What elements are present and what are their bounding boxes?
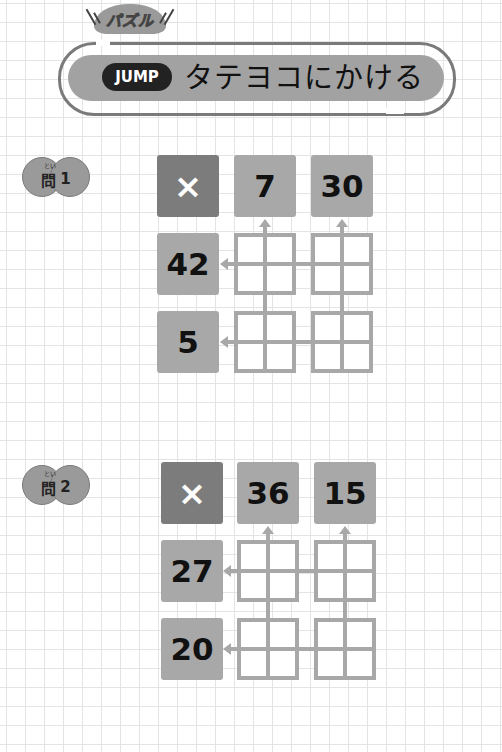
answer-grid[interactable] bbox=[237, 618, 299, 680]
answer-grid[interactable] bbox=[314, 540, 376, 602]
arrow-up-icon bbox=[339, 526, 351, 534]
problem-label-kanji: 問 bbox=[41, 169, 56, 190]
page-title: タテヨコにかける bbox=[184, 58, 424, 98]
problem-label-text: 問 1 bbox=[22, 157, 90, 197]
answer-grid[interactable] bbox=[314, 618, 376, 680]
column-result-tile: 30 bbox=[311, 155, 373, 217]
category-tag: パズル bbox=[94, 4, 166, 34]
arrow-left-icon bbox=[223, 643, 231, 655]
row-result-tile: 42 bbox=[157, 233, 219, 295]
row-result-tile: 20 bbox=[161, 618, 223, 680]
arrow-left-icon bbox=[220, 258, 228, 270]
arrow-up-icon bbox=[259, 219, 271, 227]
column-result-tile: 7 bbox=[234, 155, 296, 217]
answer-grid[interactable] bbox=[237, 540, 299, 602]
answer-grid[interactable] bbox=[234, 233, 296, 295]
category-tag-text: パズル bbox=[106, 9, 154, 30]
answer-grid[interactable] bbox=[234, 311, 296, 373]
arrow-left-icon bbox=[220, 336, 228, 348]
answer-grid[interactable] bbox=[311, 233, 373, 295]
row-result-tile: 27 bbox=[161, 540, 223, 602]
operator-tile: × bbox=[161, 462, 223, 524]
column-result-tile: 15 bbox=[314, 462, 376, 524]
problem-number: 2 bbox=[60, 478, 70, 496]
frame-gap bbox=[386, 108, 404, 114]
problem-label-text: 問 2 bbox=[22, 465, 90, 505]
operator-tile: × bbox=[157, 155, 219, 217]
row-result-tile: 5 bbox=[157, 311, 219, 373]
arrow-up-icon bbox=[262, 526, 274, 534]
column-result-tile: 36 bbox=[237, 462, 299, 524]
answer-grid[interactable] bbox=[311, 311, 373, 373]
problem-2-label: とい 問 2 bbox=[22, 465, 92, 505]
arrow-up-icon bbox=[336, 219, 348, 227]
frame-gap bbox=[96, 40, 110, 46]
problem-1-label: とい 問 1 bbox=[22, 157, 92, 197]
problem-label-kanji: 問 bbox=[41, 477, 56, 498]
arrow-left-icon bbox=[223, 565, 231, 577]
problem-number: 1 bbox=[60, 170, 70, 188]
tag-slash-right bbox=[164, 9, 175, 26]
level-badge: JUMP bbox=[102, 63, 172, 91]
